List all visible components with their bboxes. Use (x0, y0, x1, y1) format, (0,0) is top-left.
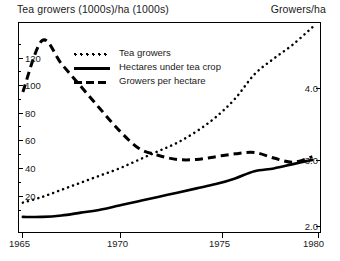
legend-swatch-solid-icon (74, 67, 110, 70)
x-label-1965: 1965 (9, 238, 30, 249)
y-label-80: 80 (25, 108, 36, 119)
x-label-1975: 1975 (209, 238, 230, 249)
right-axis-title: Growers/ha (271, 3, 326, 15)
y2-label-2: 2.0 (305, 221, 318, 232)
legend-label: Tea growers (119, 47, 171, 58)
y-label-40: 40 (25, 163, 36, 174)
y-tick-minor-130 (18, 44, 21, 45)
series-growers-per-hectare (23, 40, 312, 162)
y-tick-minor-110 (18, 71, 21, 72)
y-tick-40 (18, 168, 23, 169)
y-label-120: 120 (25, 53, 41, 64)
series-hectares-under-tea-crop (23, 160, 312, 217)
y-tick-60 (18, 140, 23, 141)
y-label-100: 100 (25, 80, 41, 91)
left-axis-title: Tea growers (1000s)/ha (1000s) (17, 3, 169, 15)
legend-label: Growers per hectare (119, 75, 206, 86)
y-tick-minor-70 (18, 126, 21, 127)
chart-figure: Tea growers (1000s)/ha (1000s) Growers/h… (0, 0, 340, 261)
y-tick-minor-50 (18, 154, 21, 155)
y-tick-20 (18, 196, 23, 197)
legend-label: Hectares under tea crop (119, 61, 221, 72)
y-tick-minor-90 (18, 99, 21, 100)
y2-label-4: 4.0 (305, 83, 318, 94)
legend-swatch-dashed-icon (74, 81, 110, 84)
y-label-20: 20 (25, 191, 36, 202)
y-tick-100 (18, 85, 23, 86)
y-tick-80 (18, 113, 23, 114)
legend-swatch-dotted-icon (74, 53, 110, 56)
y-tick-minor-10 (18, 210, 21, 211)
x-label-1980: 1980 (303, 238, 324, 249)
x-label-1970: 1970 (107, 238, 128, 249)
y-tick-120 (18, 58, 23, 59)
y-tick-minor-30 (18, 182, 21, 183)
y-label-60: 60 (25, 135, 36, 146)
y2-label-3: 3.0 (305, 155, 318, 166)
